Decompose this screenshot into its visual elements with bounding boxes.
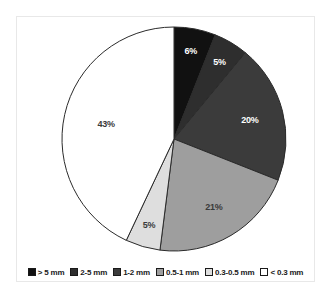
legend-item-label: 1-2 mm: [123, 268, 150, 277]
legend-item: 2-5 mm: [70, 268, 107, 277]
legend-item: 0.3-0.5 mm: [205, 268, 254, 277]
legend-item: 1-2 mm: [113, 268, 150, 277]
legend-swatch-icon: [205, 268, 213, 276]
pie-slice-label: 43%: [97, 119, 115, 129]
pie-slice-label: 20%: [241, 115, 259, 125]
legend-item-label: > 5 mm: [38, 268, 65, 277]
pie-slice-label: 5%: [143, 220, 156, 230]
legend-item-label: < 0.3 mm: [270, 268, 303, 277]
legend-item-label: 0.3-0.5 mm: [215, 268, 254, 277]
legend-item: < 0.3 mm: [260, 268, 303, 277]
legend-swatch-icon: [28, 268, 36, 276]
pie-slice-label: 21%: [205, 202, 223, 212]
pie-slice-label: 6%: [184, 46, 197, 56]
legend-swatch-icon: [70, 268, 78, 276]
pie-chart-figure: 6%5%20%21%5%43% > 5 mm2-5 mm1-2 mm0.5-1 …: [0, 0, 331, 298]
pie-slice-label: 5%: [213, 57, 226, 67]
legend-item: > 5 mm: [28, 268, 65, 277]
legend-item-label: 2-5 mm: [80, 268, 107, 277]
legend-swatch-icon: [260, 268, 268, 276]
legend-swatch-icon: [113, 268, 121, 276]
pie-slices: [62, 27, 286, 251]
pie-plot-area: 6%5%20%21%5%43%: [0, 0, 331, 258]
legend-item-label: 0.5-1 mm: [166, 268, 199, 277]
legend-item: 0.5-1 mm: [156, 268, 199, 277]
chart-legend: > 5 mm2-5 mm1-2 mm0.5-1 mm0.3-0.5 mm< 0.…: [16, 262, 315, 282]
legend-swatch-icon: [156, 268, 164, 276]
pie-svg: 6%5%20%21%5%43%: [0, 0, 331, 258]
